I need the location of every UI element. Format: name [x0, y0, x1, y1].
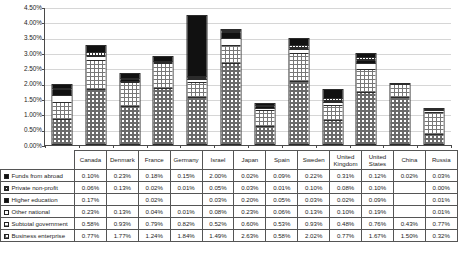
table-cell: 0.01% — [266, 182, 298, 194]
bar-segment — [188, 98, 207, 144]
bar-segment — [289, 54, 308, 82]
bar-segment — [255, 127, 274, 144]
x-axis-tick — [282, 145, 283, 148]
table-cell: 1.84% — [170, 230, 202, 242]
table-cell: 0.05% — [202, 182, 234, 194]
legend-swatch-icon — [4, 234, 9, 239]
table-cell: 0.43% — [393, 218, 425, 230]
y-axis-tick-label: 4.50% — [4, 5, 42, 11]
bar-segment — [357, 93, 376, 144]
stacked-bar[interactable] — [288, 38, 309, 145]
data-table-wrapper: CanadaDenmarkFranceGermanyIsraelJapanSpa… — [0, 150, 457, 242]
y-axis-tick-label: 2.50% — [4, 66, 42, 72]
table-cell: 0.03% — [425, 170, 457, 182]
x-axis-tick — [113, 145, 114, 148]
table-cell: 0.52% — [202, 218, 234, 230]
bar-segment — [391, 98, 410, 144]
legend-row-label: Other national — [1, 206, 75, 218]
table-cell: 0.77% — [330, 230, 362, 242]
bar-segment — [289, 39, 308, 46]
stacked-bar[interactable] — [221, 29, 242, 145]
table-row: Funds from abroad0.10%0.23%0.18%0.15%2.0… — [1, 170, 458, 182]
bar-column — [45, 8, 79, 145]
table-cell: 0.13% — [106, 206, 138, 218]
stacked-bar[interactable] — [153, 56, 174, 145]
table-cell: 0.23% — [106, 170, 138, 182]
stacked-bar[interactable] — [322, 89, 343, 145]
table-cell: 0.03% — [202, 194, 234, 206]
table-row: Higher education0.17%0.02%0.03%0.20%0.05… — [1, 194, 458, 206]
bar-segment — [222, 46, 241, 64]
table-cell: 0.82% — [170, 218, 202, 230]
table-column-header: United States — [362, 151, 394, 170]
bar-column — [113, 8, 147, 145]
table-cell: 0.60% — [234, 218, 266, 230]
y-axis-tick-label: 0.50% — [4, 127, 42, 133]
table-cell: 0.01% — [425, 194, 457, 206]
stacked-bar[interactable] — [424, 108, 445, 145]
table-column-header: France — [138, 151, 170, 170]
bar-segment — [289, 82, 308, 144]
table-cell: 0.06% — [75, 182, 107, 194]
table-cell: 1.50% — [393, 230, 425, 242]
table-column-header: Japan — [234, 151, 266, 170]
bar-segment — [323, 90, 342, 99]
bar-segment — [357, 70, 376, 93]
table-row: Business enterprise0.77%1.77%1.24%1.84%1… — [1, 230, 458, 242]
table-cell: 0.02% — [234, 170, 266, 182]
table-cell: 0.03% — [298, 194, 330, 206]
table-cell: 1.77% — [106, 230, 138, 242]
stacked-bar[interactable] — [254, 103, 275, 145]
bar-segment — [86, 46, 105, 53]
table-cell: 1.67% — [362, 230, 394, 242]
table-column-header: Canada — [75, 151, 107, 170]
table-cell: 0.58% — [266, 230, 298, 242]
table-row: Subtotal government0.58%0.93%0.79%0.82%0… — [1, 218, 458, 230]
stacked-bar[interactable] — [356, 53, 377, 145]
table-row: Private non-profit0.06%0.13%0.02%0.01%0.… — [1, 182, 458, 194]
table-cell: 0.15% — [170, 170, 202, 182]
table-cell: 0.23% — [75, 206, 107, 218]
stacked-bar[interactable] — [390, 83, 411, 145]
legend-row-label: Subtotal government — [1, 218, 75, 230]
table-cell: 0.19% — [362, 206, 394, 218]
legend-row-label: Funds from abroad — [1, 170, 75, 182]
bar-segment — [323, 121, 342, 144]
bar-segment — [222, 39, 241, 46]
table-cell: 0.01% — [170, 182, 202, 194]
bar-segment — [52, 96, 71, 103]
bar-segment — [120, 107, 139, 144]
table-column-header: China — [393, 151, 425, 170]
stacked-bar[interactable] — [119, 73, 140, 145]
table-cell: 0.12% — [362, 170, 394, 182]
y-axis-tick-label: 2.00% — [4, 81, 42, 87]
stacked-bar[interactable] — [85, 45, 106, 145]
table-cell: 0.13% — [298, 206, 330, 218]
table-cell: 1.49% — [202, 230, 234, 242]
table-cell: 0.02% — [393, 170, 425, 182]
table-cell: 0.79% — [138, 218, 170, 230]
table-cell: 0.48% — [330, 218, 362, 230]
table-column-header: Spain — [266, 151, 298, 170]
bar-segment — [86, 90, 105, 144]
x-axis-tick — [417, 145, 418, 148]
table-cell: 0.09% — [266, 170, 298, 182]
table-cell: 0.22% — [298, 170, 330, 182]
bar-segment — [154, 64, 173, 89]
stacked-bar[interactable] — [51, 84, 72, 145]
table-cell: 0.09% — [362, 194, 394, 206]
table-cell: 0.10% — [75, 170, 107, 182]
bar-segment — [222, 64, 241, 144]
bar-segment — [86, 61, 105, 90]
legend-swatch-icon — [4, 198, 9, 203]
x-axis-tick — [45, 145, 46, 148]
bar-segment — [425, 113, 444, 135]
table-cell: 0.02% — [138, 194, 170, 206]
table-cell: 1.24% — [138, 230, 170, 242]
stacked-bar[interactable] — [187, 15, 208, 145]
x-axis-tick — [79, 145, 80, 148]
legend-row-label: Higher education — [1, 194, 75, 206]
data-table: CanadaDenmarkFranceGermanyIsraelJapanSpa… — [0, 150, 458, 242]
table-column-header: Russia — [425, 151, 457, 170]
